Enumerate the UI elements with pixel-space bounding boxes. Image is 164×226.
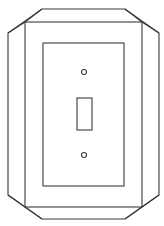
bevel-bottom-left-edge: [25, 207, 42, 219]
bevel-left-bottom-edge: [8, 195, 25, 207]
top-screw-icon: [82, 70, 87, 75]
outer-bevel-outline: [8, 9, 159, 219]
bevel-left-top-edge: [8, 22, 25, 33]
toggle-switch: [77, 98, 92, 130]
bevel-top-left-edge: [25, 9, 42, 22]
bevel-top-right-edge: [125, 9, 142, 22]
switch-plate-drawing: [0, 0, 164, 226]
bevel-bottom-right-edge: [125, 207, 142, 219]
plate-inner-panel: [43, 43, 124, 186]
bottom-screw-icon: [82, 153, 87, 158]
bevel-right-bottom-edge: [142, 195, 159, 207]
bevel-right-top-edge: [142, 22, 159, 33]
